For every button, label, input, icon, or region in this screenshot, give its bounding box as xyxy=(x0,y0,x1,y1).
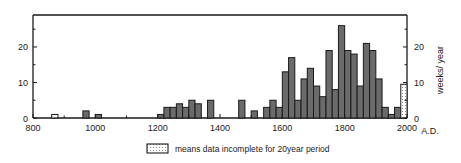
histogram-bar xyxy=(264,107,270,118)
x-axis-tick-label: 1400 xyxy=(210,123,230,133)
x-axis-tick-label: 1800 xyxy=(335,123,355,133)
x-axis-tick-label: 1200 xyxy=(148,123,168,133)
x-axis-tick-label: 1600 xyxy=(272,123,292,133)
chart-figure: 8001000120014001600180020000010102020 A.… xyxy=(0,0,461,163)
histogram-bar xyxy=(183,107,189,118)
histogram-bar xyxy=(345,51,351,118)
histogram-bar xyxy=(282,72,288,118)
histogram-bar xyxy=(370,51,376,118)
legend-label: means data incomplete for 20year period xyxy=(175,144,330,154)
histogram-bar xyxy=(95,114,101,118)
legend-swatch-incomplete xyxy=(147,144,168,153)
histogram-bar xyxy=(351,54,357,118)
right-axis-title: weeks/ year xyxy=(435,46,445,95)
histogram-bar xyxy=(176,104,182,118)
histogram-bar xyxy=(195,104,201,118)
histogram-bar xyxy=(332,90,338,118)
histogram-bar xyxy=(388,114,394,118)
histogram-bar xyxy=(395,107,401,118)
y-axis-tick-label-right: 0 xyxy=(414,114,419,124)
histogram-bar xyxy=(314,86,320,118)
histogram-bar xyxy=(326,51,332,118)
histogram-bar xyxy=(208,100,214,118)
y-axis-tick-label-left: 20 xyxy=(18,42,28,52)
histogram-bar xyxy=(295,100,301,118)
x-axis-tick-label: 1000 xyxy=(85,123,105,133)
histogram-bar xyxy=(289,58,295,118)
histogram-bar xyxy=(170,107,176,118)
histogram-bar xyxy=(357,86,363,118)
histogram-bar xyxy=(307,68,313,118)
histogram-bar xyxy=(382,107,388,118)
histogram-bar xyxy=(270,100,276,118)
histogram-bar xyxy=(376,79,382,118)
histogram-bar xyxy=(320,97,326,118)
histogram-bar xyxy=(164,107,170,118)
histogram-chart: 8001000120014001600180020000010102020 A.… xyxy=(0,0,461,163)
y-axis-tick-label-left: 10 xyxy=(18,78,28,88)
histogram-bar xyxy=(158,114,164,118)
histogram-bar xyxy=(239,100,245,118)
histogram-bar xyxy=(189,100,195,118)
x-axis-tick-label: 800 xyxy=(25,123,40,133)
x-axis-suffix-label: A.D. xyxy=(421,126,439,136)
histogram-bar xyxy=(251,111,257,118)
x-axis-tick-label: 2000 xyxy=(397,123,417,133)
y-axis-tick-label-left: 0 xyxy=(23,114,28,124)
histogram-bar xyxy=(301,79,307,118)
legend: means data incomplete for 20year period xyxy=(147,144,330,154)
y-axis-tick-label-right: 20 xyxy=(414,42,424,52)
histogram-bar xyxy=(338,26,344,118)
histogram-bar xyxy=(83,111,89,118)
chart-background xyxy=(0,0,461,163)
histogram-bar xyxy=(401,84,407,118)
histogram-bar xyxy=(52,114,58,118)
y-axis-tick-label-right: 10 xyxy=(414,78,424,88)
histogram-bar xyxy=(276,107,282,118)
histogram-bar xyxy=(363,43,369,118)
